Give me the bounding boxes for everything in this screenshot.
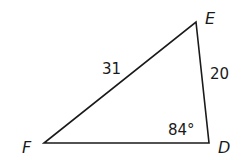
- vertex-label-e: E: [205, 9, 216, 28]
- vertex-label-f: F: [22, 138, 32, 157]
- side-label-fe: 31: [102, 60, 121, 78]
- side-label-ed: 20: [210, 65, 229, 83]
- triangle-diagram: E D F 31 20 84°: [0, 0, 243, 160]
- vertex-label-d: D: [218, 138, 230, 157]
- angle-label-d: 84°: [168, 121, 195, 139]
